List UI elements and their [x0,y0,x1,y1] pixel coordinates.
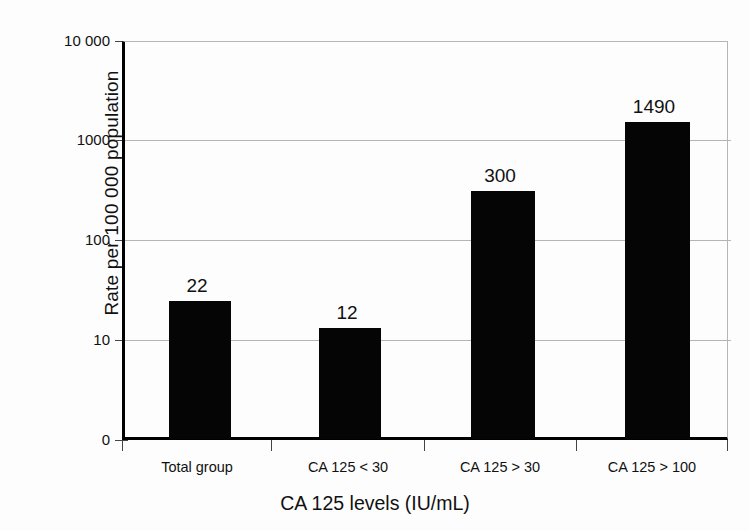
bar-value-label-ca125-gt-100: 1490 [594,96,714,118]
bar-chart-figure: Rate per 100 000 population 10 000 1000 … [0,0,750,531]
y-tick-label-100: 100 [0,231,110,248]
y-tick-label-10: 10 [0,331,110,348]
x-axis-title: CA 125 levels (IU/mL) [0,492,750,515]
y-tick-label-0: 0 [0,431,110,448]
bar-value-label-ca125-lt-30: 12 [287,302,407,324]
bar-value-label-total-group: 22 [137,275,257,297]
x-tick-mark-2 [424,440,425,451]
x-category-label-total-group: Total group [127,459,267,475]
bar-total-group [169,301,231,439]
y-tick-label-1000: 1000 [0,131,110,148]
x-category-label-ca125-gt-30: CA 125 > 30 [430,459,570,475]
bar-ca125-gt-100 [625,122,690,439]
x-tick-mark-3 [576,440,577,451]
x-tick-mark-1 [271,440,272,451]
x-category-label-ca125-lt-30: CA 125 < 30 [278,459,418,475]
x-category-label-ca125-gt-100: CA 125 > 100 [582,459,722,475]
bar-ca125-gt-30 [471,191,535,439]
bar-value-label-ca125-gt-30: 300 [440,165,560,187]
x-tick-mark-0 [122,440,123,451]
x-tick-mark-4 [727,440,728,451]
bar-ca125-lt-30 [319,328,381,439]
y-tick-label-10000: 10 000 [0,32,110,49]
